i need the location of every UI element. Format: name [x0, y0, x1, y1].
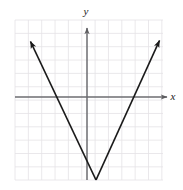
axes: [15, 28, 167, 180]
coordinate-plane-svg: x y: [0, 0, 183, 190]
y-axis-label: y: [83, 5, 89, 17]
curve-right-branch: [96, 41, 160, 181]
x-axis-label: x: [170, 90, 176, 102]
curve-left-branch: [31, 42, 97, 181]
grid-lines: [15, 20, 163, 180]
graph-figure: x y: [0, 0, 183, 190]
